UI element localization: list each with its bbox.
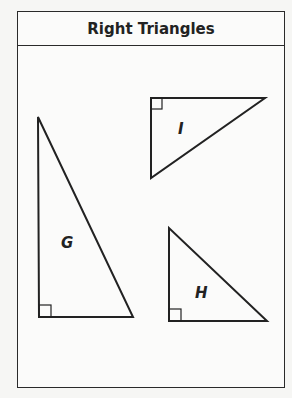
triangle-i: I: [151, 98, 265, 178]
triangle-label-h: H: [195, 284, 208, 302]
triangle-g: G: [38, 117, 133, 317]
right-angle-marker-g: [39, 305, 51, 317]
right-angle-marker-h: [169, 309, 181, 321]
triangle-h: H: [169, 228, 267, 321]
triangle-label-g: G: [61, 234, 73, 252]
right-angle-marker-i: [151, 98, 162, 109]
triangles-figure: I G H: [0, 0, 292, 398]
triangle-label-i: I: [178, 120, 184, 138]
